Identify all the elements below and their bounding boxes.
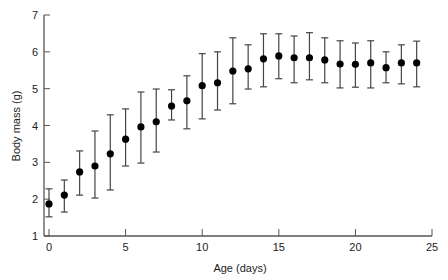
x-tick-label: 25 bbox=[426, 241, 438, 253]
y-axis-label: Body mass (g) bbox=[10, 91, 22, 162]
x-tick-label: 5 bbox=[123, 241, 129, 253]
x-axis-ticks: 0510152025 bbox=[46, 229, 438, 253]
data-point-marker bbox=[153, 118, 160, 125]
data-point-marker bbox=[367, 59, 374, 66]
data-point-marker bbox=[398, 59, 405, 66]
data-point-marker bbox=[168, 102, 175, 109]
axes bbox=[44, 15, 432, 236]
y-tick-label: 6 bbox=[32, 46, 38, 58]
x-axis-label: Age (days) bbox=[213, 262, 266, 274]
data-point-marker bbox=[245, 65, 252, 72]
data-point-marker bbox=[76, 168, 83, 175]
x-tick-label: 10 bbox=[196, 241, 208, 253]
data-point-marker bbox=[122, 136, 129, 143]
y-tick-label: 5 bbox=[32, 83, 38, 95]
x-tick-label: 20 bbox=[349, 241, 361, 253]
data-point-marker bbox=[45, 200, 52, 207]
data-point-marker bbox=[183, 97, 190, 104]
data-point-marker bbox=[275, 52, 282, 59]
data-point-marker bbox=[306, 54, 313, 61]
data-point-marker bbox=[199, 82, 206, 89]
data-point-marker bbox=[352, 61, 359, 68]
data-point-marker bbox=[291, 54, 298, 61]
data-point-marker bbox=[107, 150, 114, 157]
data-point-marker bbox=[229, 67, 236, 74]
x-tick-label: 15 bbox=[273, 241, 285, 253]
data-point-marker bbox=[137, 123, 144, 130]
data-point-marker bbox=[321, 56, 328, 63]
y-tick-label: 2 bbox=[32, 193, 38, 205]
x-tick-label: 0 bbox=[46, 241, 52, 253]
error-bars bbox=[46, 33, 421, 217]
scatter-chart: 1234567 0510152025 Age (days) Body mass … bbox=[0, 0, 448, 280]
y-tick-label: 4 bbox=[32, 120, 38, 132]
data-point-marker bbox=[413, 59, 420, 66]
data-point-marker bbox=[382, 64, 389, 71]
data-point-marker bbox=[61, 192, 68, 199]
y-tick-label: 3 bbox=[32, 156, 38, 168]
data-point-marker bbox=[260, 55, 267, 62]
y-tick-label: 1 bbox=[32, 230, 38, 242]
data-point-marker bbox=[91, 162, 98, 169]
data-point-marker bbox=[336, 60, 343, 67]
data-point-marker bbox=[214, 79, 221, 86]
y-tick-label: 7 bbox=[32, 9, 38, 21]
